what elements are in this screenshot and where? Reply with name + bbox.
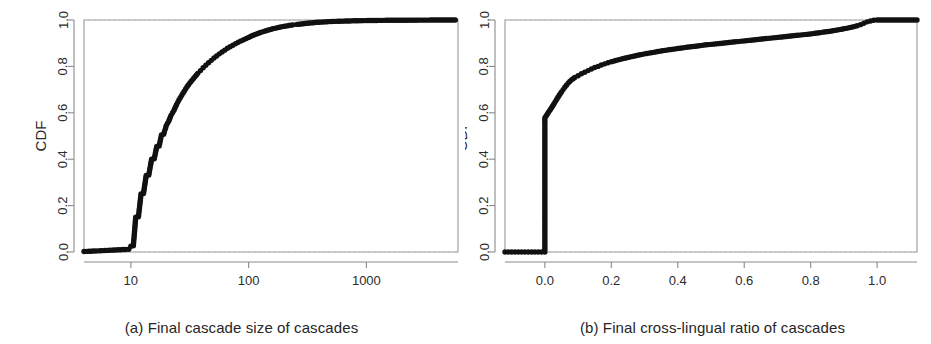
y-axis-title: CDF — [465, 121, 470, 152]
x-tick-label: 100 — [238, 273, 260, 288]
data-series — [502, 17, 919, 254]
y-tick-label: 1.0 — [56, 11, 71, 29]
y-tick-label: 1.0 — [477, 11, 492, 29]
data-point — [914, 17, 919, 22]
y-tick-label: 0.6 — [56, 104, 71, 122]
y-tick-label: 0.4 — [56, 150, 71, 168]
x-tick-label: 0.2 — [602, 273, 620, 288]
chart-panel-a: 0.00.20.40.60.81.0CDF101001000 (a) Final… — [0, 0, 465, 344]
caption-a: (a) Final cascade size of cascades — [0, 319, 465, 336]
plot-frame — [505, 20, 917, 252]
y-tick-label: 0.2 — [56, 197, 71, 215]
y-tick-label: 0.8 — [477, 57, 492, 75]
y-tick-label: 0.4 — [477, 150, 492, 168]
caption-b: (b) Final cross-lingual ratio of cascade… — [465, 319, 930, 336]
data-point — [453, 17, 458, 22]
y-axis-title: CDF — [32, 121, 49, 152]
chart-a-canvas: 0.00.20.40.60.81.0CDF101001000 — [0, 0, 465, 344]
y-tick-label: 0.0 — [477, 243, 492, 261]
data-series — [81, 17, 458, 254]
x-tick-label: 1.0 — [868, 273, 886, 288]
x-tick-label: 0.4 — [669, 273, 687, 288]
x-tick-label: 0.8 — [802, 273, 820, 288]
y-tick-label: 0.6 — [477, 104, 492, 122]
y-tick-label: 0.0 — [56, 243, 71, 261]
chart-b-canvas: 0.00.20.40.60.81.0CDF0.00.20.40.60.81.0 — [465, 0, 930, 344]
y-tick-label: 0.8 — [56, 57, 71, 75]
y-tick-label: 0.2 — [477, 197, 492, 215]
x-tick-label: 0.0 — [536, 273, 554, 288]
chart-panel-b: 0.00.20.40.60.81.0CDF0.00.20.40.60.81.0 … — [465, 0, 930, 344]
cdf-figure: 0.00.20.40.60.81.0CDF101001000 (a) Final… — [0, 0, 931, 344]
x-tick-label: 1000 — [352, 273, 381, 288]
x-tick-label: 10 — [124, 273, 138, 288]
x-tick-label: 0.6 — [735, 273, 753, 288]
